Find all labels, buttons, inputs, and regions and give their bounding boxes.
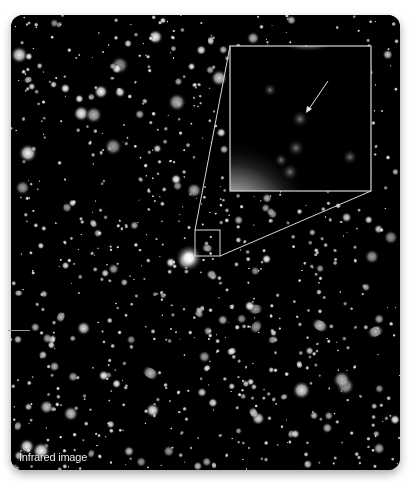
image-caption: Infrared image — [19, 451, 87, 463]
star-field — [11, 15, 400, 470]
edge-tick-mark — [8, 330, 30, 331]
infrared-image — [11, 15, 400, 470]
